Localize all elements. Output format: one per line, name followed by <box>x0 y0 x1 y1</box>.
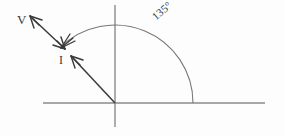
vector-v-label: V <box>17 13 26 26</box>
vector-diagram-canvas: V I 135° <box>0 0 285 136</box>
vector-i-label: I <box>59 54 63 66</box>
diagram-svg <box>0 0 285 136</box>
